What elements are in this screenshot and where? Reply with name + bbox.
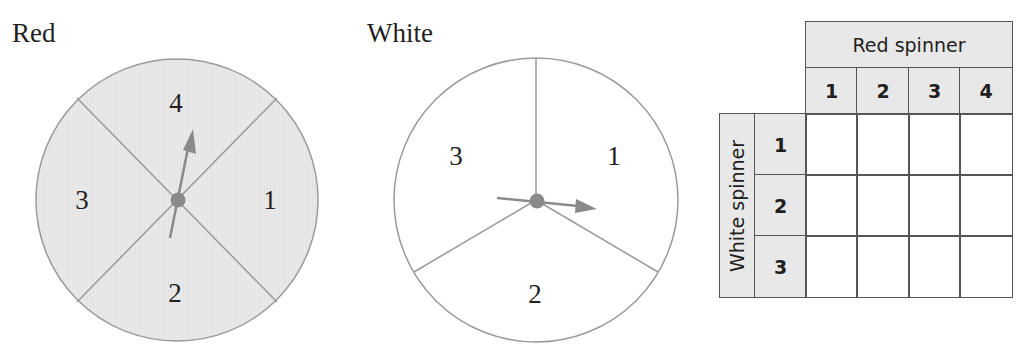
table-cell[interactable] (908, 174, 961, 237)
column-header-label: Red spinner (853, 34, 966, 56)
column-header-red-spinner: Red spinner (805, 21, 1013, 69)
table-cell[interactable] (805, 174, 858, 237)
table-cell[interactable] (908, 113, 961, 176)
table-cell[interactable] (805, 113, 858, 176)
row-label: 2 (774, 195, 787, 217)
row-header-3: 3 (754, 235, 807, 298)
table-cell[interactable] (908, 235, 961, 298)
row-header-label: White spinner (727, 139, 749, 271)
table-cell[interactable] (856, 235, 910, 298)
column-label: 4 (979, 80, 992, 102)
row-header-white-spinner: White spinner (719, 113, 756, 298)
column-header-1: 1 (805, 67, 858, 115)
table-cell[interactable] (856, 174, 910, 237)
row-header-1: 1 (754, 113, 807, 176)
outcome-table: Red spinner 1 2 3 4 White spinner 1 2 3 (0, 0, 1028, 356)
table-cell[interactable] (959, 174, 1013, 237)
column-header-4: 4 (959, 67, 1013, 115)
column-header-3: 3 (908, 67, 961, 115)
row-header-2: 2 (754, 174, 807, 237)
row-label: 3 (774, 256, 787, 278)
column-label: 2 (876, 80, 889, 102)
row-label: 1 (774, 134, 787, 156)
table-cell[interactable] (959, 113, 1013, 176)
column-header-2: 2 (856, 67, 910, 115)
table-cell[interactable] (805, 235, 858, 298)
column-label: 1 (825, 80, 838, 102)
table-cell[interactable] (856, 113, 910, 176)
column-label: 3 (928, 80, 941, 102)
table-cell[interactable] (959, 235, 1013, 298)
